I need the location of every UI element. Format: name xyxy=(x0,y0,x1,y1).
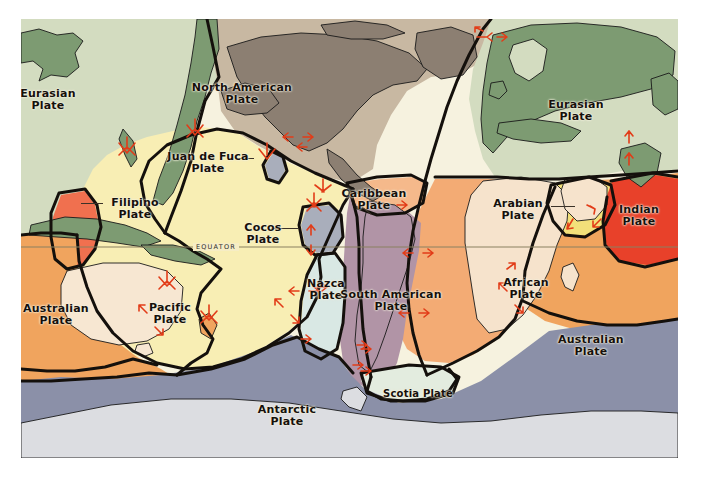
leader-line-filipino xyxy=(81,203,103,204)
world-map: Eurasian Plate Eurasian Plate North Amer… xyxy=(21,19,678,458)
leader-line-arabian xyxy=(551,206,575,207)
map-canvas xyxy=(21,19,678,458)
leader-line-cocos xyxy=(271,228,299,229)
plate-area-indian xyxy=(603,175,678,265)
equator-label: EQUATOR xyxy=(193,243,239,251)
tectonic-plate-figure: Eurasian Plate Eurasian Plate North Amer… xyxy=(0,0,704,477)
leader-line-juandefuca xyxy=(238,158,254,159)
